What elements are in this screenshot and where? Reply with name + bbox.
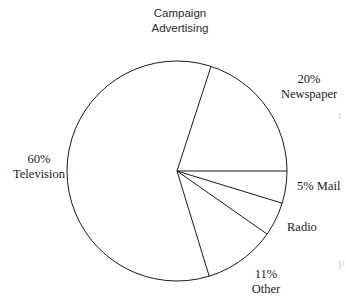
edge-artifact-bottom: P xyxy=(338,258,345,273)
radio-label: Radio xyxy=(287,220,317,235)
pie-slice-divider-mail-radio xyxy=(177,171,282,203)
pie-slice-divider-other-television xyxy=(177,171,209,276)
edge-artifact-top: r xyxy=(338,108,342,123)
pie-chart-figure: Campaign Advertising 20% Newspaper 60% T… xyxy=(0,0,346,303)
pie-slice-divider-television-newspaper xyxy=(177,66,211,171)
mail-label: 5% Mail xyxy=(297,179,340,194)
pie-slice-divider-radio-other xyxy=(177,171,267,234)
other-label: 11% Other xyxy=(240,267,292,297)
newspaper-label: 20% Newspaper xyxy=(272,72,346,102)
television-label: 60% Television xyxy=(2,152,76,182)
